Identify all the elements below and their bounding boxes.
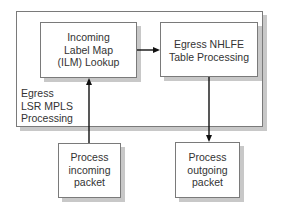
arrowhead-right-icon [153,47,160,53]
arrowhead-up-icon [86,78,92,85]
arrowhead-down-icon [206,135,212,142]
connectors [0,0,284,213]
